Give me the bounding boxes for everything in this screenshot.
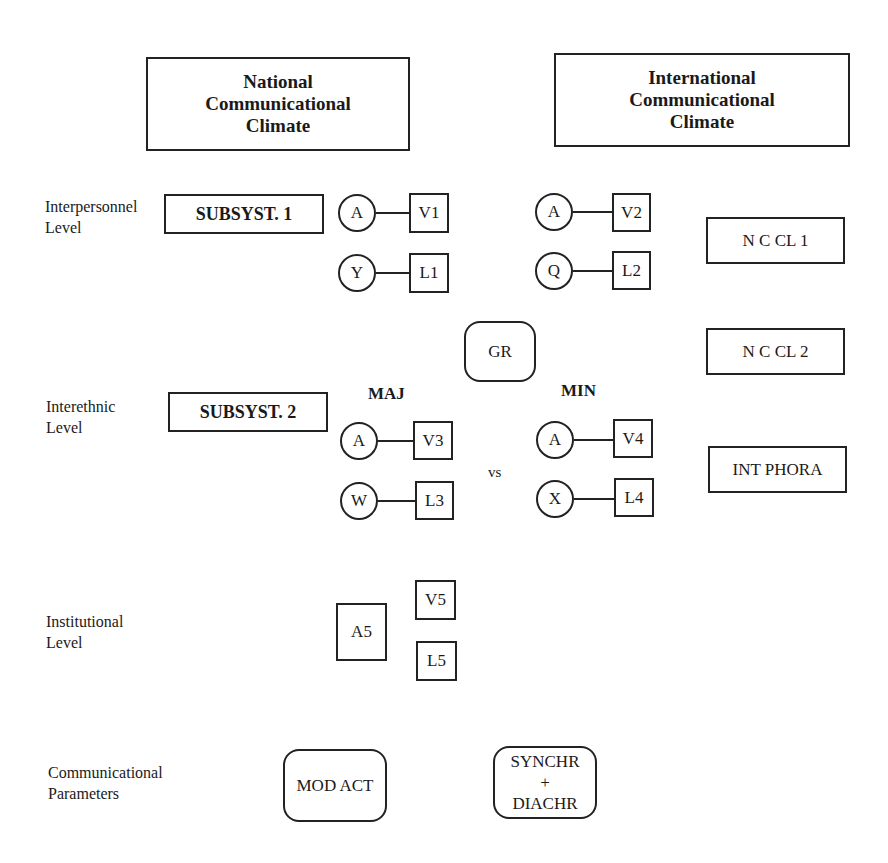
connector-line (573, 211, 612, 213)
box-label: V1 (419, 203, 440, 223)
mod-act-label: MOD ACT (297, 776, 374, 796)
box-label: V2 (621, 203, 642, 223)
subsystem-1-label: SUBSYST. 1 (196, 204, 293, 225)
v5-label: V5 (425, 590, 446, 610)
ncl1-label: N C CL 1 (743, 231, 809, 251)
actor-circle-y: Y (338, 254, 376, 292)
value-box-v3: V3 (413, 421, 453, 460)
ncl1-box: N C CL 1 (706, 217, 845, 264)
circle-label: A (353, 431, 365, 451)
connector-line (574, 439, 613, 441)
connector-line (376, 212, 409, 214)
l5-box: L5 (416, 641, 457, 681)
actor-circle-x: X (536, 480, 574, 518)
actor-circle-w: W (340, 482, 378, 520)
national-climate-title: National Communicational Climate (205, 71, 351, 137)
v5-box: V5 (415, 580, 456, 620)
communicational-parameters-label: Communicational Parameters (48, 762, 163, 804)
a5-box: A5 (336, 603, 387, 661)
interethnic-level-label: Interethnic Level (46, 396, 115, 438)
box-label: V3 (423, 431, 444, 451)
connector-line (573, 270, 612, 272)
connector-line (574, 498, 614, 500)
value-box-v2: V2 (612, 193, 651, 232)
circle-label: W (351, 491, 367, 511)
subsystem-1-box: SUBSYST. 1 (164, 194, 324, 234)
circle-label: X (549, 489, 561, 509)
value-box-l2: L2 (612, 251, 651, 290)
intphora-label: INT PHORA (733, 460, 823, 480)
synchr-diachr-box: SYNCHR + DIACHR (493, 746, 597, 819)
international-climate-box: International Communicational Climate (554, 53, 850, 147)
actor-circle-a4: A (536, 421, 574, 459)
circle-label: Q (548, 261, 560, 281)
circle-label: A (549, 430, 561, 450)
box-label: V4 (623, 429, 644, 449)
subsystem-2-label: SUBSYST. 2 (200, 402, 297, 423)
connector-line (378, 440, 413, 442)
versus-label: vs (488, 464, 501, 481)
a5-label: A5 (351, 622, 372, 642)
synchr-diachr-label: SYNCHR + DIACHR (511, 751, 580, 814)
national-climate-box: National Communicational Climate (146, 57, 410, 151)
connector-line (376, 272, 409, 274)
box-label: L4 (625, 488, 644, 508)
actor-circle-a1: A (338, 194, 376, 232)
actor-circle-a3: A (340, 422, 378, 460)
ncl2-box: N C CL 2 (706, 328, 845, 375)
box-label: L1 (420, 263, 439, 283)
interpersonnel-level-label: Interpersonnel Level (45, 196, 137, 238)
intphora-box: INT PHORA (708, 446, 847, 493)
value-box-v1: V1 (409, 193, 449, 233)
value-box-l3: L3 (415, 481, 454, 520)
subsystem-2-box: SUBSYST. 2 (168, 392, 328, 432)
connector-line (378, 500, 415, 502)
international-climate-title: International Communicational Climate (629, 67, 775, 133)
mod-act-box: MOD ACT (283, 749, 387, 822)
box-label: L2 (622, 261, 641, 281)
circle-label: Y (351, 263, 363, 283)
ncl2-label: N C CL 2 (743, 342, 809, 362)
majority-label: MAJ (368, 384, 405, 404)
value-box-l4: L4 (614, 478, 654, 517)
institutional-level-label: Institutional Level (46, 611, 123, 653)
minority-label: MIN (561, 381, 596, 401)
box-label: L3 (425, 491, 444, 511)
value-box-l1: L1 (409, 253, 449, 293)
l5-label: L5 (427, 651, 446, 671)
circle-label: A (548, 202, 560, 222)
gr-box: GR (464, 321, 536, 382)
actor-circle-q: Q (535, 252, 573, 290)
gr-label: GR (488, 342, 512, 362)
actor-circle-a2: A (535, 193, 573, 231)
circle-label: A (351, 203, 363, 223)
value-box-v4: V4 (613, 419, 653, 458)
